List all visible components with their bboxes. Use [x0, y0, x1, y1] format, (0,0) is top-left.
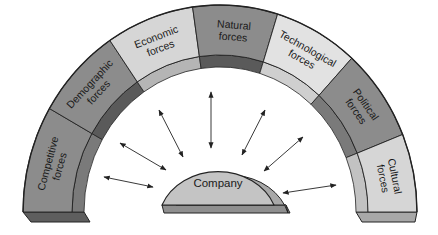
double-arrow-icon: [242, 110, 265, 155]
right-base-slab: [356, 212, 417, 222]
company-shape: Company: [162, 172, 290, 213]
left-base-slab: [23, 212, 90, 222]
segment-label-natural: Naturalforces: [216, 17, 252, 44]
double-arrow-icon: [104, 177, 153, 187]
macroenvironment-diagram: Company CompetitiveforcesDemographicforc…: [0, 0, 438, 235]
double-arrow-icon: [159, 110, 183, 157]
double-arrow-icon: [264, 137, 303, 171]
company-label: Company: [193, 177, 242, 189]
double-arrow-icon: [283, 185, 336, 193]
double-arrow-icon: [120, 143, 166, 170]
label-line: forces: [218, 29, 247, 43]
company-base: [162, 205, 290, 213]
